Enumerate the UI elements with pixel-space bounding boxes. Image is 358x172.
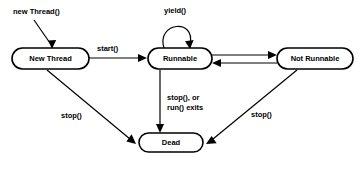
state-label-not-runnable: Not Runnable [291,54,340,63]
edge-label-new-thread-call: new Thread() [13,7,60,16]
state-node-new-thread[interactable]: New Thread [12,48,89,69]
state-label-dead: Dead [162,138,181,147]
state-node-not-runnable[interactable]: Not Runnable [277,48,353,69]
edge-label-stop-left: stop() [61,111,82,120]
edge-label-stop-right: stop() [251,110,272,119]
edge-start [89,54,147,62]
edge-stop-not-runnable-to-dead [206,70,297,144]
thread-state-diagram: Runnable : start() --> Not Runnable (top… [0,0,358,172]
edge-label-start-call: start() [97,44,119,53]
edge-new-thread-constructor [34,20,56,49]
edge-not-runnable-to-runnable [212,59,277,67]
state-label-new-thread: New Thread [29,54,72,63]
state-label-runnable: Runnable [163,54,197,63]
state-node-dead[interactable]: Dead [139,133,203,152]
edge-label-stop-or-run-line2: run() exits [167,103,203,112]
edge-runnable-to-not-runnable [212,51,277,59]
edge-stop-new-thread-to-dead [47,70,136,144]
diagram-canvas: Runnable : start() --> Not Runnable (top… [0,0,358,172]
edge-stop-or-run-exits [156,70,164,133]
edge-label-yield-call: yield() [164,6,187,15]
edge-label-stop-or-run-line1: stop(), or [167,93,200,102]
edge-yield-self-loop [163,26,194,49]
state-node-runnable[interactable]: Runnable [148,48,212,69]
